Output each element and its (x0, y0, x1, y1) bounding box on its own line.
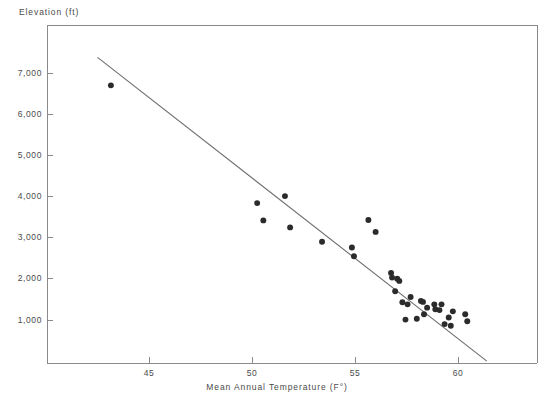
data-point (442, 321, 448, 327)
data-point (424, 305, 430, 311)
y-axis-title: Elevation (ft) (19, 7, 79, 17)
data-point (373, 229, 379, 235)
y-tick-label-5000: 5,000 (18, 150, 42, 160)
regression-line (98, 57, 487, 361)
scatter-plot-svg: 7,000 6,000 5,000 4,000 3,000 2,000 1,00… (0, 0, 552, 400)
x-axis-title: Mean Annual Temperature (F°) (206, 382, 347, 392)
y-axis-tick-labels: 7,000 6,000 5,000 4,000 3,000 2,000 1,00… (18, 68, 42, 325)
x-tick-label-45: 45 (144, 368, 155, 378)
data-point (254, 200, 260, 206)
data-point (446, 315, 452, 321)
data-point (450, 308, 456, 314)
data-point (462, 311, 468, 317)
data-point (399, 299, 405, 305)
data-point (420, 299, 426, 305)
y-tick-label-6000: 6,000 (18, 109, 42, 119)
y-tick-label-2000: 2,000 (18, 273, 42, 283)
chart-figure: 7,000 6,000 5,000 4,000 3,000 2,000 1,00… (0, 0, 552, 400)
data-point (437, 307, 443, 313)
x-axis-tick-labels: 45 50 55 60 (144, 368, 464, 378)
y-axis-ticks (47, 73, 53, 320)
data-point (403, 317, 409, 323)
data-point (421, 311, 427, 317)
data-point (396, 278, 402, 284)
data-point (405, 301, 411, 307)
data-point (414, 316, 420, 322)
data-point (351, 253, 357, 259)
data-point (319, 239, 325, 245)
data-point (282, 193, 288, 199)
data-point (439, 301, 445, 307)
data-point (392, 288, 398, 294)
x-tick-label-60: 60 (453, 368, 464, 378)
data-point (448, 323, 454, 329)
data-point (349, 245, 355, 251)
data-point (108, 82, 114, 88)
y-tick-label-1000: 1,000 (18, 315, 42, 325)
y-tick-label-3000: 3,000 (18, 232, 42, 242)
x-axis-ticks (149, 357, 458, 363)
x-tick-label-55: 55 (350, 368, 361, 378)
data-point (431, 301, 437, 307)
scatter-points-layer (108, 82, 470, 328)
y-tick-label-4000: 4,000 (18, 191, 42, 201)
y-tick-label-7000: 7,000 (18, 68, 42, 78)
data-point (287, 224, 293, 230)
data-point (260, 217, 266, 223)
data-point (464, 318, 470, 324)
x-tick-label-50: 50 (247, 368, 258, 378)
data-point (365, 217, 371, 223)
data-point (408, 294, 414, 300)
data-point (389, 275, 395, 281)
